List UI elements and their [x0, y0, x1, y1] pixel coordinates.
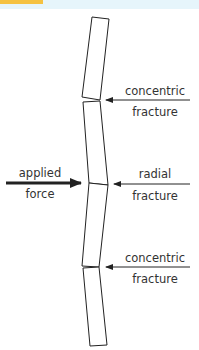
glass-pane-4: [83, 267, 107, 346]
radial-label-line2: fracture: [132, 189, 178, 203]
concentric-top-label-line2: fracture: [132, 105, 178, 119]
radial-label-line1: radial: [139, 167, 172, 181]
concentric-top-label-line1: concentric: [125, 84, 185, 98]
glass-pane-2: [83, 101, 108, 185]
applied-force-label-line2: force: [26, 187, 55, 201]
glass-pane-1: [82, 17, 109, 100]
applied-force: applied force: [6, 166, 81, 201]
glass-pane-3: [82, 183, 108, 267]
concentric-bottom-label-line1: concentric: [125, 251, 185, 265]
concentric-fracture-top: concentric fracture: [106, 84, 190, 119]
concentric-fracture-bottom: concentric fracture: [106, 251, 190, 286]
radial-fracture: radial fracture: [114, 167, 190, 203]
glass-fracture-diagram: concentric fracture applied force radial…: [0, 0, 199, 350]
glass-panes: [82, 17, 109, 346]
concentric-bottom-label-line2: fracture: [132, 272, 178, 286]
applied-force-label-line1: applied: [19, 166, 61, 180]
